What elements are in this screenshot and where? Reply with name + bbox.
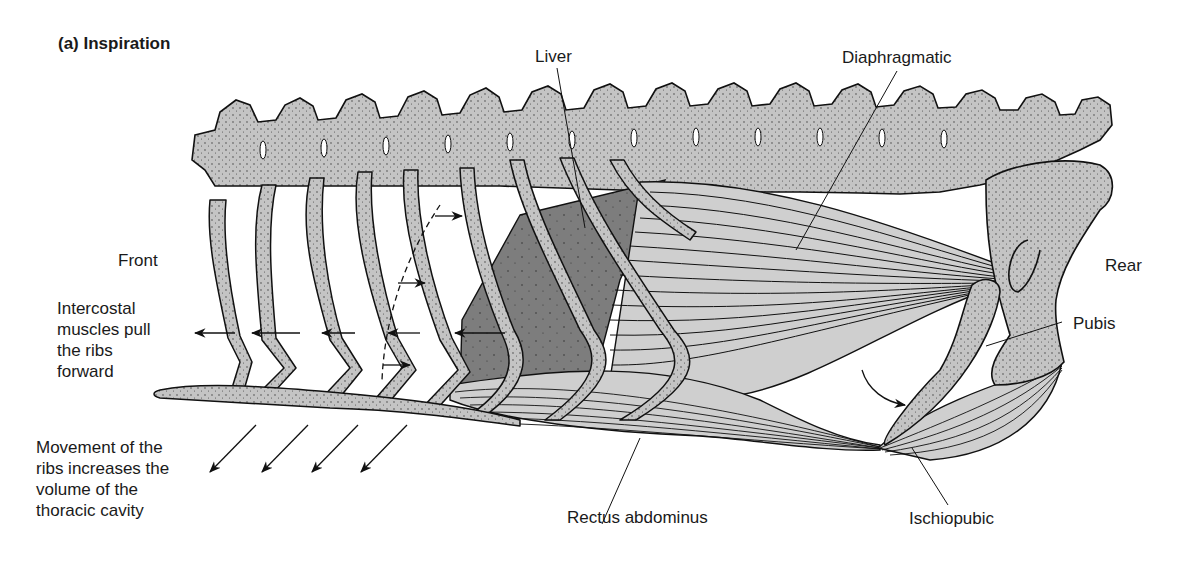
label-front: Front bbox=[118, 250, 158, 271]
label-ischiopubic: Ischiopubic bbox=[909, 508, 994, 529]
pubis-rotation-arrow bbox=[862, 370, 905, 405]
label-liver: Liver bbox=[535, 46, 572, 67]
label-rear: Rear bbox=[1105, 255, 1142, 276]
vertebral-column bbox=[192, 83, 1112, 194]
figure-title: (a) Inspiration bbox=[58, 33, 170, 54]
label-intercostal: Intercostal muscles pull the ribs forwar… bbox=[57, 298, 151, 382]
label-pubis: Pubis bbox=[1073, 313, 1116, 334]
anatomical-figure bbox=[0, 0, 1184, 562]
label-diaphragmatic: Diaphragmatic bbox=[842, 47, 952, 68]
label-movement: Movement of the ribs increases the volum… bbox=[36, 437, 169, 521]
volume-arrows bbox=[210, 425, 407, 472]
label-rectus-abdominus: Rectus abdominus bbox=[567, 507, 708, 528]
